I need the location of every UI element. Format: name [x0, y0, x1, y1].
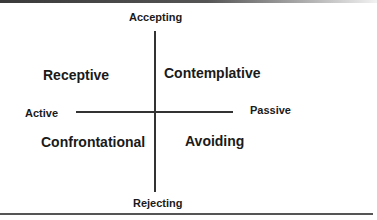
quadrant-label-confrontational: Confrontational	[41, 135, 145, 149]
horizontal-axis-line	[76, 111, 233, 113]
bottom-border-rule	[0, 213, 373, 215]
axis-label-rejecting: Rejecting	[133, 198, 183, 209]
quadrant-label-receptive: Receptive	[43, 68, 109, 82]
quadrant-diagram: Accepting Rejecting Active Passive Recep…	[0, 0, 377, 220]
axis-label-accepting: Accepting	[129, 12, 182, 23]
quadrant-label-contemplative: Contemplative	[164, 66, 260, 80]
top-border-rule	[0, 0, 377, 3]
quadrant-label-avoiding: Avoiding	[185, 134, 244, 148]
axis-label-passive: Passive	[250, 105, 291, 116]
axis-label-active: Active	[25, 108, 58, 119]
